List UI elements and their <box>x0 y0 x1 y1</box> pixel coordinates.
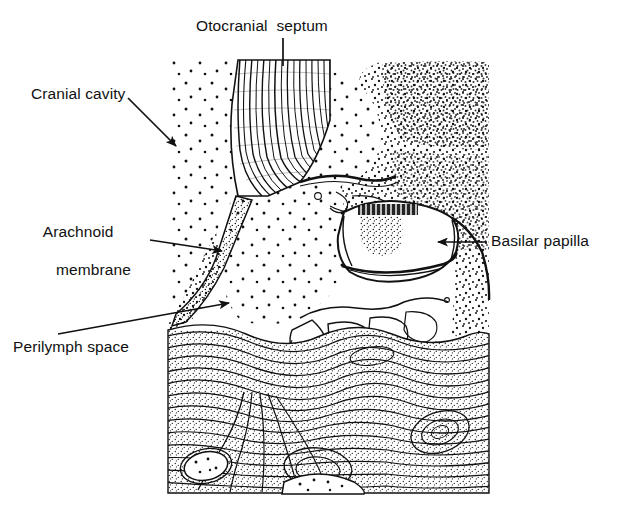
label-perilymph-space: Perilymph space <box>13 337 129 356</box>
anatomical-figure: Otocranial septum Cranial cavity Arachno… <box>0 0 623 514</box>
label-basilar-papilla: Basilar papilla <box>491 231 589 250</box>
label-arachnoid-line1: Arachnoid <box>43 223 114 240</box>
label-arachnoid-line2: membrane <box>26 260 131 279</box>
label-arachnoid-membrane: Arachnoid membrane <box>26 203 131 317</box>
label-otocranial-septum: Otocranial septum <box>196 16 328 35</box>
region-lamellar-bone <box>160 325 496 496</box>
label-cranial-cavity: Cranial cavity <box>31 84 125 103</box>
